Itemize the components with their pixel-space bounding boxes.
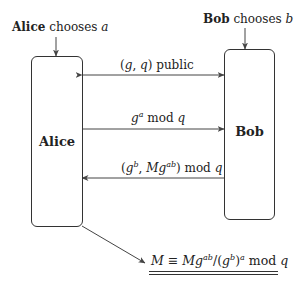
result-arrow <box>82 226 145 263</box>
comma: , <box>139 161 147 175</box>
bob-to-alice-label: (gb, Mgab) mod q <box>121 160 222 175</box>
mod-text: mod <box>245 253 280 268</box>
bob-name: Bob <box>203 12 230 26</box>
var-g: g <box>222 253 230 268</box>
chooses-text: chooses <box>49 20 97 34</box>
bob-secret: b <box>286 12 294 26</box>
var-M: M <box>146 161 158 175</box>
var-g: g <box>158 161 166 175</box>
var-M: M <box>151 253 164 268</box>
var-M: M <box>182 253 195 268</box>
mod-text: mod <box>143 111 177 125</box>
var-q: q <box>140 58 148 72</box>
alice-to-bob-label: ga mod q <box>131 110 185 125</box>
mod-text: mod <box>181 161 215 175</box>
public-params-label: (g, q) public <box>120 58 194 72</box>
alice-secret: a <box>101 20 108 34</box>
alice-chooses-label: Alice chooses a <box>12 20 109 34</box>
bob-chooses-label: Bob chooses b <box>203 12 293 26</box>
var-g: g <box>195 253 203 268</box>
equiv-sign: ≡ <box>164 253 182 268</box>
var-q: q <box>280 253 288 268</box>
var-q: q <box>215 161 223 175</box>
comma: , <box>132 58 140 72</box>
bob-box-label: Bob <box>235 124 264 139</box>
var-q: q <box>177 111 185 125</box>
exp-ab: ab <box>166 160 176 169</box>
formula-underline-1 <box>149 271 278 272</box>
bob-box: Bob <box>224 49 275 220</box>
var-g: g <box>131 111 139 125</box>
public-text: public <box>152 58 193 72</box>
alice-box-label: Alice <box>39 134 75 149</box>
slash-paren: /( <box>213 253 222 268</box>
alice-box: Alice <box>31 56 83 227</box>
formula-underline-2 <box>149 274 278 275</box>
alice-name: Alice <box>12 20 45 34</box>
exp-ab: ab <box>203 253 213 262</box>
chooses-text: chooses <box>233 12 281 26</box>
decryption-formula: M ≡ Mgab/(gb)a mod q <box>151 253 288 268</box>
